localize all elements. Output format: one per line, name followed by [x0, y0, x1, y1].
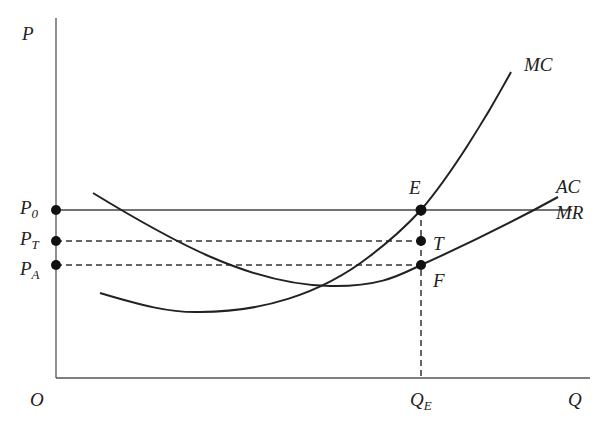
- mc-label: MC: [524, 55, 553, 74]
- ac-label: AC: [556, 177, 580, 196]
- point-e-label: E: [409, 178, 421, 197]
- ac-curve: [93, 193, 558, 286]
- y-axis-label: P: [22, 24, 34, 43]
- pt-label: PT: [20, 229, 39, 251]
- point-f: [416, 260, 426, 270]
- point-e: [416, 205, 427, 216]
- point-f-label: F: [433, 271, 445, 290]
- p0-dot: [51, 205, 61, 215]
- point-t-label: T: [433, 234, 444, 253]
- mr-label: MR: [556, 203, 583, 222]
- x-axis-label: Q: [568, 390, 582, 409]
- pt-dot: [51, 236, 61, 246]
- qe-label: QE: [410, 390, 432, 412]
- mc-curve: [100, 72, 511, 312]
- origin-label: O: [30, 390, 44, 409]
- diagram-canvas: [0, 0, 603, 424]
- p0-label: P0: [20, 198, 38, 220]
- pa-dot: [51, 260, 61, 270]
- point-t: [416, 236, 426, 246]
- pa-label: PA: [20, 259, 40, 281]
